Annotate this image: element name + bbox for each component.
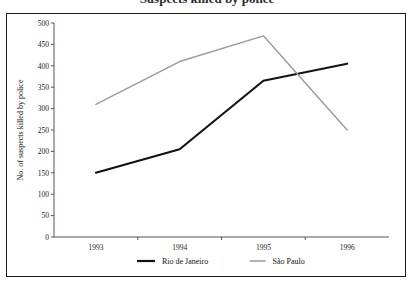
y-tick-label: 500 — [38, 19, 50, 28]
y-tick-label: 250 — [38, 126, 50, 135]
x-tick-label: 1994 — [172, 243, 187, 252]
chart-figure-frame: 0501001502002503003504004505001993199419… — [6, 13, 406, 277]
y-tick-label: 0 — [45, 233, 49, 242]
line-chart: 0501001502002503003504004505001993199419… — [7, 14, 405, 276]
legend-label: Rio de Janeiro — [162, 257, 208, 266]
y-tick-label: 150 — [38, 169, 50, 178]
series-line — [96, 64, 347, 173]
y-tick-label: 450 — [38, 40, 50, 49]
y-tick-label: 200 — [38, 147, 50, 156]
legend-label: São Paulo — [273, 257, 305, 266]
y-axis-title: No. of suspects killed by police — [16, 79, 25, 180]
chart-title-bleed: Suspects killed by police — [0, 0, 414, 12]
x-tick-label: 1995 — [256, 243, 271, 252]
plot-area: 0501001502002503003504004505001993199419… — [7, 14, 405, 276]
page-title: Suspects killed by police — [0, 0, 414, 7]
x-tick-label: 1993 — [88, 243, 103, 252]
x-tick-label: 1996 — [340, 243, 355, 252]
y-tick-label: 400 — [38, 62, 50, 71]
y-tick-label: 350 — [38, 83, 50, 92]
y-tick-label: 100 — [38, 190, 50, 199]
y-tick-label: 300 — [38, 104, 50, 113]
y-tick-label: 50 — [42, 211, 50, 220]
